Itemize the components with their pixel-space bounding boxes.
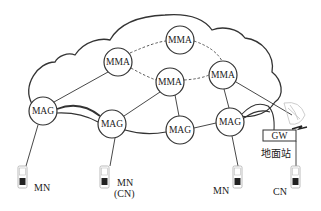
mag-node-3: MAG <box>166 116 194 144</box>
network-diagram: MMA MMA MMA MMA MAG MAG MAG MAG GW 地面站 M <box>0 0 321 211</box>
gateway-box: GW <box>263 130 296 141</box>
svg-text:MMA: MMA <box>106 57 130 67</box>
terminal-label-2: MN <box>117 177 133 188</box>
mma-node-left: MMA <box>104 48 132 76</box>
svg-text:MAG: MAG <box>101 119 123 129</box>
terminal-label-3: MN <box>213 185 229 196</box>
mma-node-top: MMA <box>166 26 194 54</box>
svg-text:MAG: MAG <box>169 125 191 135</box>
terminal-phone-3 <box>233 166 242 188</box>
svg-text:MMA: MMA <box>168 35 192 45</box>
lightning-icon <box>292 126 307 129</box>
terminal-label-1: MN <box>34 182 50 193</box>
terminal-phone-2 <box>100 166 109 188</box>
terminal-label-4: CN <box>273 186 287 197</box>
ground-station-label: 地面站 <box>261 147 291 159</box>
link-mag2-mag3 <box>125 130 166 134</box>
cloud-outline <box>29 15 281 117</box>
mag-node-2: MAG <box>98 110 126 138</box>
svg-text:MMA: MMA <box>158 77 182 87</box>
mma-node-middle: MMA <box>156 68 184 96</box>
mma-node-right: MMA <box>209 61 237 89</box>
svg-text:GW: GW <box>272 131 288 141</box>
double-link-mag1-mag2 <box>57 106 100 122</box>
svg-text:MAG: MAG <box>219 117 241 127</box>
svg-text:MMA: MMA <box>211 70 235 80</box>
satellite-dish-icon <box>284 103 305 125</box>
mag-node-1: MAG <box>29 97 57 125</box>
svg-text:MAG: MAG <box>32 106 54 116</box>
terminal-sublabel-2: (CN) <box>114 188 135 200</box>
terminal-phone-4 <box>291 166 300 188</box>
mag-node-4: MAG <box>216 108 244 136</box>
terminal-phone-1 <box>18 166 27 188</box>
